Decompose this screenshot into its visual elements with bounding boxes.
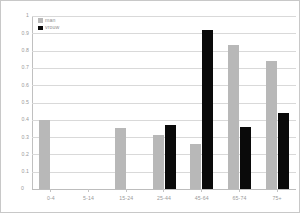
bar-man-65-74 <box>228 45 239 189</box>
x-axis-tick-label: 0-4 <box>32 196 70 201</box>
plot-area <box>32 16 296 189</box>
legend-swatch-vrouw <box>38 26 43 31</box>
y-axis-tick-label: 0.2 <box>3 152 29 157</box>
legend: manvrouw <box>38 18 59 30</box>
bar-vrouw-45-64 <box>202 30 213 189</box>
bar-man-0-4 <box>39 120 50 189</box>
bar-vrouw-25-44 <box>165 125 176 189</box>
x-axis-tick-label: 75+ <box>258 196 296 201</box>
y-axis-tick-label: 0.1 <box>3 169 29 174</box>
y-axis-tick-label: 0.4 <box>3 117 29 122</box>
origin-label: 0 <box>21 186 24 191</box>
x-axis-tick-label: 5-14 <box>70 196 108 201</box>
bar-group <box>107 16 145 189</box>
y-axis-tick-label: 0.8 <box>3 48 29 53</box>
x-axis-tick-label: 45-64 <box>183 196 221 201</box>
bar-group <box>145 16 183 189</box>
legend-swatch-man <box>38 18 43 23</box>
bar-group <box>221 16 259 189</box>
y-axis-tick-label: 0.7 <box>3 65 29 70</box>
x-axis-tick-label: 15-24 <box>107 196 145 201</box>
legend-label: vrouw <box>45 25 59 30</box>
bar-groups <box>32 16 296 189</box>
bar-vrouw-75+ <box>278 113 289 189</box>
bar-group <box>32 16 70 189</box>
y-axis-tick-label: 0.5 <box>3 100 29 105</box>
bar-group <box>183 16 221 189</box>
x-axis-tick-mark <box>201 189 202 192</box>
x-axis-tick-mark <box>163 189 164 192</box>
x-axis-tick-labels: 0-45-1415-2425-4445-6465-7475+ <box>32 196 296 201</box>
bar-vrouw-65-74 <box>240 127 251 189</box>
legend-item-man[interactable]: man <box>38 18 59 23</box>
y-axis-tick-label: 0.3 <box>3 135 29 140</box>
bar-group <box>70 16 108 189</box>
y-axis-tick-label: 1 <box>3 13 29 18</box>
legend-item-vrouw[interactable]: vrouw <box>38 25 59 30</box>
x-axis: 0-45-1415-2425-4445-6465-7475+ <box>32 189 296 215</box>
x-axis-tick-marks <box>32 189 296 193</box>
x-axis-tick-label: 25-44 <box>145 196 183 201</box>
x-axis-tick-mark <box>126 189 127 192</box>
bar-man-15-24 <box>115 128 126 189</box>
x-axis-tick-mark <box>239 189 240 192</box>
bar-man-75+ <box>266 61 277 189</box>
bar-chart: 10.90.80.70.60.50.40.30.20.1 0 0-45-1415… <box>0 0 300 213</box>
bar-group <box>258 16 296 189</box>
legend-label: man <box>45 18 55 23</box>
x-axis-tick-mark <box>50 189 51 192</box>
y-axis-tick-label: 0.9 <box>3 31 29 36</box>
y-axis-tick-labels: 10.90.80.70.60.50.40.30.20.1 <box>1 16 29 189</box>
x-axis-tick-mark <box>277 189 278 192</box>
y-axis-tick-label: 0.6 <box>3 83 29 88</box>
x-axis-tick-label: 65-74 <box>221 196 259 201</box>
x-axis-tick-mark <box>88 189 89 192</box>
bar-man-45-64 <box>190 144 201 189</box>
bar-man-25-44 <box>153 135 164 189</box>
